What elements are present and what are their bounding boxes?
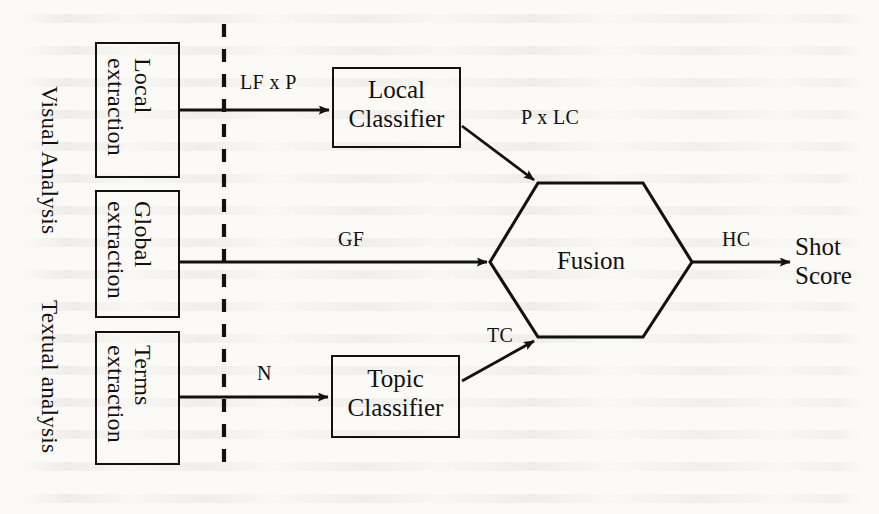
edge-label-gf-text: GF: [338, 228, 364, 250]
node-terms-extraction-label: Terms extraction: [102, 345, 156, 443]
edge-label-n-text: N: [257, 362, 272, 384]
edge-label-lf-x-p-text: LF x P: [240, 71, 297, 93]
node-shot-score-line1: Shot: [795, 233, 841, 260]
node-topic-classifier-label: Topic Classifier: [331, 365, 460, 422]
edge-label-tc-text: TC: [487, 324, 513, 346]
section-label-textual-analysis-text: Textual analysis: [37, 300, 62, 453]
node-global-extraction-label: Global extraction: [102, 201, 156, 299]
node-terms-extraction-line2: extraction: [103, 345, 129, 443]
node-local-classifier-label: Local Classifier: [332, 76, 461, 133]
node-local-classifier-line2: Classifier: [349, 105, 445, 132]
node-fusion-label-text: Fusion: [557, 247, 625, 274]
node-topic-classifier-line2: Classifier: [348, 394, 444, 421]
edge-label-lf-x-p: LF x P: [240, 71, 297, 94]
section-label-visual-analysis-text: Visual Analysis: [37, 86, 62, 234]
edge-label-tc: TC: [487, 324, 513, 347]
edge-local-classifier-to-fusion: [462, 126, 534, 180]
edge-label-p-x-lc: P x LC: [521, 106, 579, 129]
node-shot-score-line2: Score: [795, 262, 852, 289]
edge-label-hc-text: HC: [722, 228, 751, 250]
diagram-canvas: Visual Analysis Textual analysis Local e…: [0, 0, 879, 514]
edge-label-p-x-lc-text: P x LC: [521, 106, 579, 128]
node-shot-score: Shot Score: [795, 233, 877, 290]
node-local-extraction-label: Local extraction: [102, 58, 156, 156]
node-fusion-label[interactable]: Fusion: [510, 247, 672, 276]
section-label-visual-analysis: Visual Analysis: [36, 86, 62, 234]
node-terms-extraction-line1: Terms: [130, 345, 156, 406]
node-topic-classifier-line1: Topic: [367, 365, 424, 392]
node-global-extraction-line1: Global: [130, 201, 156, 268]
node-local-classifier-line1: Local: [368, 76, 425, 103]
edge-label-n: N: [257, 362, 272, 385]
section-label-textual-analysis: Textual analysis: [36, 300, 62, 453]
edge-label-hc: HC: [722, 228, 751, 251]
node-global-extraction-line2: extraction: [103, 201, 129, 299]
node-local-extraction-line2: extraction: [103, 58, 129, 156]
edge-topic-classifier-to-fusion: [462, 341, 534, 381]
edge-label-gf: GF: [338, 228, 364, 251]
node-local-extraction-line1: Local: [130, 58, 156, 114]
